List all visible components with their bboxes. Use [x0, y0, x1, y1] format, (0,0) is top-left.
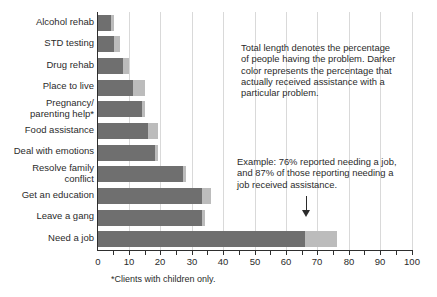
category-label: STD testing [44, 38, 94, 49]
bar-leave-a-gang [98, 210, 205, 226]
bar-pregnancy-parenting-help- [98, 101, 145, 117]
bar-deal-with-emotions [98, 145, 158, 161]
bar-alcohol-rehab [98, 15, 114, 31]
category-label: Drug rehab [46, 60, 94, 71]
tick-60 [286, 251, 287, 255]
category-label: Need a job [48, 233, 94, 244]
explanation-annotation: Total length denotes the percentage of p… [241, 42, 395, 98]
bar-segment-received [98, 188, 202, 204]
bar-need-a-job [98, 231, 337, 247]
bar-segment-not-received [111, 15, 114, 31]
tick-45 [239, 251, 240, 255]
bar-place-to-live [98, 80, 145, 96]
tick-label-50: 50 [240, 256, 270, 267]
tick-label-70: 70 [302, 256, 332, 267]
category-label: Alcohol rehab [36, 17, 94, 28]
tick-label-60: 60 [271, 256, 301, 267]
tick-70 [317, 251, 318, 255]
category-label: Food assistance [25, 125, 94, 136]
footnote: *Clients with children only. [111, 274, 215, 284]
category-label: Place to live [43, 81, 94, 92]
bar-segment-received [98, 36, 114, 52]
bar-segment-not-received [142, 101, 145, 117]
bar-std-testing [98, 36, 120, 52]
arrow-shaft [306, 196, 307, 211]
category-label: Resolve family conflict [32, 163, 94, 184]
tick-65 [302, 251, 303, 255]
bar-segment-received [98, 123, 148, 139]
gridline-40 [223, 12, 224, 250]
down-arrow-icon [302, 196, 311, 217]
tick-15 [145, 251, 146, 255]
tick-35 [207, 251, 208, 255]
tick-label-80: 80 [334, 256, 364, 267]
tick-95 [396, 251, 397, 255]
bar-segment-received [98, 231, 305, 247]
tick-25 [176, 251, 177, 255]
tick-20 [160, 251, 161, 255]
category-label: Get an education [22, 190, 94, 201]
category-label: Leave a gang [36, 211, 94, 222]
tick-100 [412, 251, 413, 255]
gridline-100 [412, 12, 413, 250]
bar-chart-figure: Alcohol rehabSTD testingDrug rehabPlace … [0, 0, 437, 297]
category-label: Deal with emotions [14, 146, 94, 157]
tick-label-40: 40 [208, 256, 238, 267]
tick-50 [255, 251, 256, 255]
tick-55 [270, 251, 271, 255]
bar-segment-received [98, 166, 183, 182]
tick-5 [113, 251, 114, 255]
bar-segment-received [98, 145, 155, 161]
bar-segment-not-received [305, 231, 336, 247]
bar-segment-not-received [123, 58, 129, 74]
bar-segment-received [98, 80, 133, 96]
tick-label-20: 20 [145, 256, 175, 267]
tick-label-30: 30 [177, 256, 207, 267]
bar-resolve-family-conflict [98, 166, 186, 182]
bar-segment-not-received [114, 36, 120, 52]
bar-drug-rehab [98, 58, 129, 74]
tick-label-100: 100 [397, 256, 427, 267]
y-axis-line [97, 12, 98, 250]
tick-label-0: 0 [83, 256, 113, 267]
bar-segment-not-received [148, 123, 157, 139]
tick-label-90: 90 [365, 256, 395, 267]
bar-segment-not-received [202, 210, 205, 226]
tick-90 [380, 251, 381, 255]
category-label: Pregnancy/ parenting help* [30, 98, 94, 119]
bar-segment-received [98, 101, 142, 117]
tick-30 [192, 251, 193, 255]
bar-segment-not-received [202, 188, 211, 204]
bar-segment-received [98, 210, 202, 226]
tick-80 [349, 251, 350, 255]
bar-segment-received [98, 15, 111, 31]
bar-segment-received [98, 58, 123, 74]
bar-segment-not-received [155, 145, 158, 161]
tick-label-10: 10 [114, 256, 144, 267]
tick-85 [364, 251, 365, 255]
tick-75 [333, 251, 334, 255]
bar-food-assistance [98, 123, 158, 139]
bar-segment-not-received [133, 80, 146, 96]
arrow-head [302, 210, 310, 217]
bar-segment-not-received [183, 166, 186, 182]
bar-get-an-education [98, 188, 211, 204]
tick-10 [129, 251, 130, 255]
tick-40 [223, 251, 224, 255]
example-annotation: Example: 76% reported needing a job, and… [237, 156, 396, 190]
